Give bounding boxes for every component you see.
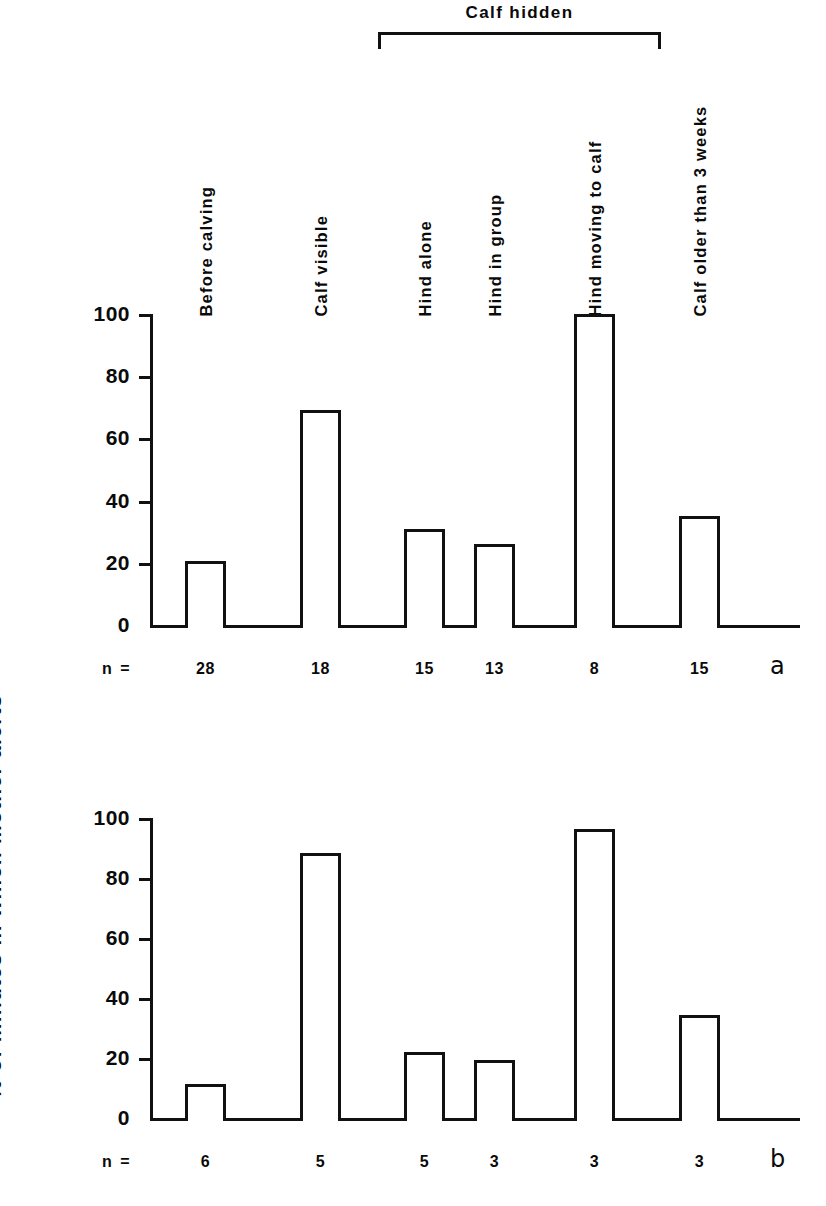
sample-size-value-b-3: 3 xyxy=(465,1153,525,1171)
panel-letter-b: b xyxy=(770,1145,785,1173)
sample-size-value-b-1: 5 xyxy=(291,1153,351,1171)
bar-b-5 xyxy=(679,1015,720,1122)
sample-size-value-b-0: 6 xyxy=(176,1153,236,1171)
sample-size-row-b: n =655333 xyxy=(0,1153,826,1177)
y-tick-label-60: 60 xyxy=(60,927,130,948)
y-tick-40 xyxy=(139,998,150,1001)
bar-b-4 xyxy=(574,829,615,1122)
sample-size-value-b-5: 3 xyxy=(670,1153,730,1171)
y-tick-label-80: 80 xyxy=(60,867,130,888)
y-tick-20 xyxy=(139,1058,150,1061)
y-axis-line xyxy=(150,818,153,1121)
panel-b: 020406080100 xyxy=(0,0,826,1206)
bar-b-0 xyxy=(185,1084,226,1122)
sample-size-value-b-4: 3 xyxy=(565,1153,625,1171)
y-tick-100 xyxy=(139,818,150,821)
y-tick-label-0: 0 xyxy=(60,1107,130,1128)
bar-b-1 xyxy=(300,853,341,1122)
y-tick-label-40: 40 xyxy=(60,987,130,1008)
y-tick-label-100: 100 xyxy=(60,807,130,828)
sample-size-value-b-2: 5 xyxy=(395,1153,455,1171)
y-tick-80 xyxy=(139,878,150,881)
y-tick-60 xyxy=(139,938,150,941)
figure-root: Calf hidden Before calvingCalf visibleHi… xyxy=(0,0,826,1206)
sample-size-label: n = xyxy=(102,1153,132,1171)
bar-b-2 xyxy=(404,1052,445,1121)
bar-b-3 xyxy=(474,1060,515,1122)
y-tick-label-20: 20 xyxy=(60,1047,130,1068)
